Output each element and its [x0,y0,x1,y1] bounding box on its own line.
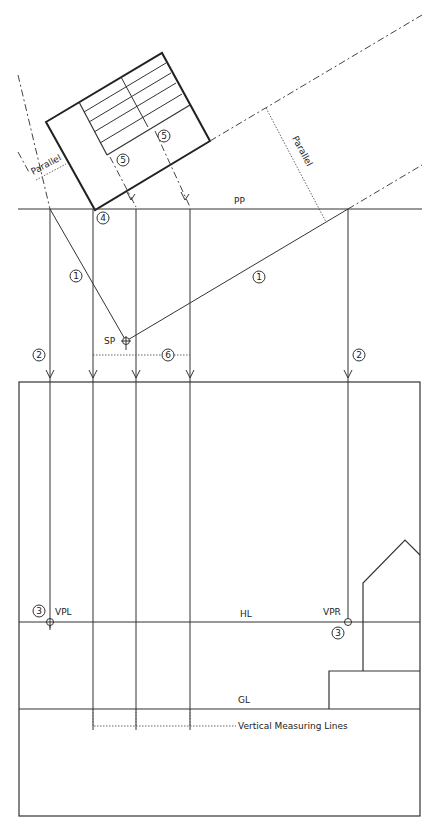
step1-left-number: 1 [73,271,79,281]
picture-plane-label: PP [234,196,245,206]
house-outline [329,540,420,709]
right-sightline-extension [348,165,422,209]
picture-plane: PP [18,196,422,209]
vml-annotation: Vertical Measuring Lines [93,709,348,731]
sight-line-right [126,209,348,341]
vpl-label: VPL [55,607,72,617]
vml-label: Vertical Measuring Lines [238,721,348,731]
parallel-left-label: Parallel [29,153,63,177]
ground-line-label: GL [238,695,250,705]
step-markers: 1 1 2 2 3 3 4 5 5 6 [33,130,365,639]
horizon-line-label: HL [240,609,252,619]
stair-tread [84,63,166,112]
plan-edge-extension [210,15,422,141]
ground-line-group: GL [19,695,420,709]
step4-number: 4 [100,213,106,223]
plan-view [46,53,210,210]
sight-lines [50,209,348,341]
station-point: SP [104,336,131,350]
frame-outline [19,382,420,816]
plan-inner-wall [79,102,107,155]
arrow-icon [127,192,135,200]
step3-left-number: 3 [36,606,42,616]
step5b-number: 5 [161,131,167,141]
vml-bracket [93,709,190,726]
parallel-measures: Parallel Parallel [29,108,326,222]
plan-inner-wall [107,105,190,155]
step1-right-number: 1 [256,272,262,282]
house-step [329,671,420,709]
step2-right-number: 2 [356,350,362,360]
vpr-label: VPR [323,607,341,617]
stair-tread [89,73,171,122]
house-roof-wall [363,540,420,671]
step3-right-number: 3 [335,628,341,638]
left-parallel-extension [18,75,50,209]
parallel-right-measure [266,108,326,222]
plan-outline [46,53,210,210]
step6-number: 6 [165,350,171,360]
stair-tread [94,83,176,132]
perspective-diagram: Parallel Parallel PP SP [0,0,445,835]
parallel-right-label: Parallel [290,134,314,168]
step2-left-number: 2 [36,350,42,360]
horizon-line-group: HL VPL VPR [19,607,420,630]
picture-frame [19,382,420,816]
step5a-number: 5 [120,155,126,165]
projector-5b [155,131,190,207]
left-parallel-guide [18,152,30,174]
station-point-label: SP [104,336,116,346]
vertical-projectors [46,192,352,730]
sight-line-left [50,209,126,341]
